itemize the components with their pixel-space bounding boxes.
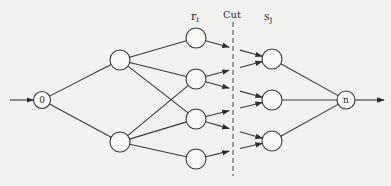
node-circle [186, 28, 206, 48]
node-circle [186, 69, 206, 89]
cut-edge-r4-s3-left [206, 151, 229, 157]
cut-edge-r4-s3-right [240, 143, 262, 148]
edge-source-a2 [49, 104, 111, 137]
nodes: 0n [34, 28, 356, 169]
cut-edge-r2-s1-right [240, 62, 262, 68]
node-source: 0 [34, 92, 51, 109]
cut-label: Cut [223, 9, 241, 20]
cut-edge-r2-s1-left [206, 70, 229, 76]
edge-s1-sink [281, 64, 338, 96]
edge-a1-r3 [128, 66, 188, 113]
node-r1 [186, 28, 206, 48]
node-circle [110, 50, 130, 70]
node-r2 [186, 69, 206, 89]
cut-edges [206, 41, 263, 157]
edge-s3-sink [281, 104, 338, 136]
column-labels: ri Cut sj [191, 9, 272, 24]
cut-edge-r1-s1-left [206, 41, 230, 47]
node-label: 0 [39, 95, 45, 105]
cut-edge-r2-s2-left [206, 82, 230, 88]
s-label: sj [264, 10, 272, 24]
edges [49, 41, 338, 157]
node-circle [110, 132, 130, 152]
node-circle [186, 109, 206, 129]
node-circle [186, 149, 206, 169]
cut-edge-r3-s3-left [206, 122, 230, 129]
node-label: n [343, 95, 349, 105]
node-circle [262, 90, 282, 110]
cut-edge-r2-s2-right [240, 91, 262, 97]
node-r4 [186, 149, 206, 169]
node-a1 [110, 50, 130, 70]
node-s2 [262, 90, 282, 110]
r-label: ri [191, 10, 199, 24]
flow-network-diagram: 0n ri Cut sj [0, 0, 391, 186]
node-a2 [110, 132, 130, 152]
edge-source-a1 [50, 65, 112, 97]
edge-a2-r4 [130, 144, 186, 157]
node-s1 [262, 49, 282, 69]
cut-edge-r3-s2-left [206, 111, 229, 117]
node-circle [262, 131, 282, 151]
node-circle [262, 49, 282, 69]
node-sink: n [337, 91, 355, 109]
cut-edge-r1-s1-right [240, 50, 262, 56]
edge-a1-r1 [130, 41, 187, 57]
edge-a2-r2 [128, 85, 189, 135]
node-r3 [186, 109, 206, 129]
cut-edge-r3-s3-right [240, 132, 262, 139]
cut-edge-r3-s2-right [240, 102, 262, 108]
edge-a2-r3 [130, 122, 187, 139]
node-s3 [262, 131, 282, 151]
